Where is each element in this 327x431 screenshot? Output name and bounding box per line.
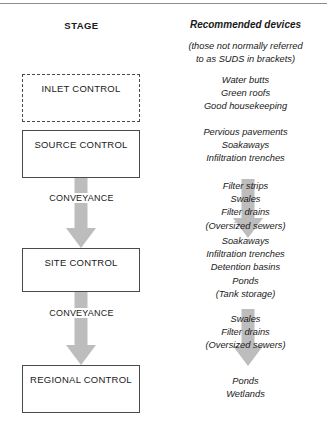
device-item: Swales [164, 193, 327, 206]
arrow-head-down-icon [66, 228, 96, 248]
device-item: (Oversized sewers) [164, 339, 327, 352]
device-group-inlet-control: Water butts Green roofs Good housekeepin… [164, 74, 327, 114]
device-item: Good housekeeping [164, 100, 327, 113]
stage-label-source-control: SOURCE CONTROL [23, 139, 139, 150]
device-item: Swales [164, 313, 327, 326]
device-item: Filter drains [164, 326, 327, 339]
devices-column: (those not normally referred to as SUDS … [164, 0, 327, 431]
device-item: Filter strips [164, 180, 327, 193]
device-item: Soakaways [164, 235, 327, 248]
device-item: Infiltration trenches [164, 248, 327, 261]
devices-note-line-1: (those not normally referred [164, 40, 327, 53]
arrow-shaft [75, 292, 88, 345]
conveyance-label-second-text: CONVEYANCE [48, 308, 114, 318]
devices-bracket-note: (those not normally referred to as SUDS … [164, 40, 327, 66]
stage-box-site-control: SITE CONTROL [22, 248, 140, 292]
device-item: Ponds [164, 375, 327, 388]
devices-note-line-2: to as SUDS in brackets) [164, 53, 327, 66]
conveyance-arrow-site-to-regional [66, 292, 96, 365]
device-group-site-control: Soakaways Infiltration trenches Detentio… [164, 235, 327, 301]
device-item: Water butts [164, 74, 327, 87]
device-item: Green roofs [164, 87, 327, 100]
stage-box-inlet-control: INLET CONTROL [22, 74, 140, 122]
device-item: Detention basins [164, 261, 327, 274]
stage-box-source-control: SOURCE CONTROL [22, 130, 140, 178]
device-item: (Tank storage) [164, 288, 327, 301]
stage-box-regional-control: REGIONAL CONTROL [22, 365, 140, 413]
stage-column-header: STAGE [0, 20, 163, 31]
device-group-conveyance-first: Filter strips Swales Filter drains (Over… [164, 180, 327, 233]
device-item: Filter drains [164, 206, 327, 219]
device-group-regional-control: Ponds Wetlands [164, 375, 327, 401]
device-item: (Oversized sewers) [164, 220, 327, 233]
arrow-shaft [75, 178, 88, 228]
conveyance-label-first-text: CONVEYANCE [48, 193, 114, 203]
conveyance-label-first: CONVEYANCE [0, 193, 163, 203]
device-item: Pervious pavements [164, 126, 327, 139]
device-item: Soakaways [164, 139, 327, 152]
stage-label-inlet-control: INLET CONTROL [23, 83, 139, 94]
arrow-head-down-icon [66, 345, 96, 365]
conveyance-arrow-source-to-site [66, 178, 96, 248]
device-item: Ponds [164, 275, 327, 288]
device-item: Wetlands [164, 388, 327, 401]
device-group-conveyance-second: Swales Filter drains (Oversized sewers) [164, 313, 327, 353]
stage-label-site-control: SITE CONTROL [23, 257, 139, 268]
device-group-source-control: Pervious pavements Soakaways Infiltratio… [164, 126, 327, 166]
device-item: Infiltration trenches [164, 152, 327, 165]
conveyance-label-second: CONVEYANCE [0, 308, 163, 318]
stage-label-regional-control: REGIONAL CONTROL [23, 374, 139, 385]
